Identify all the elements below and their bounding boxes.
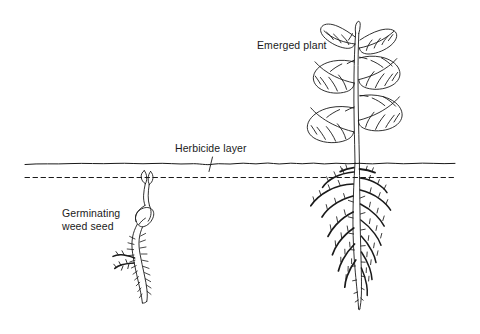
diagram-artwork [0,0,480,334]
leaf-upper-left [313,60,354,93]
root-laterals-right [360,178,391,295]
emerged-plant-root-system [311,163,391,310]
soil-surface-line [25,163,455,165]
root-laterals-left [311,172,356,287]
herbicide-layer-diagram: Emerged plant Herbicide layer Germinatin… [0,0,480,334]
shallow-roots-at-herbicide-layer [340,168,375,173]
label-emerged-plant: Emerged plant [257,39,327,52]
germinating-weed-seed-drawing [113,171,154,304]
label-germinating-weed-seed: Germinating weed seed [62,207,120,232]
leaf-upper-right [359,56,400,89]
label-herbicide-layer: Herbicide layer [175,142,247,155]
